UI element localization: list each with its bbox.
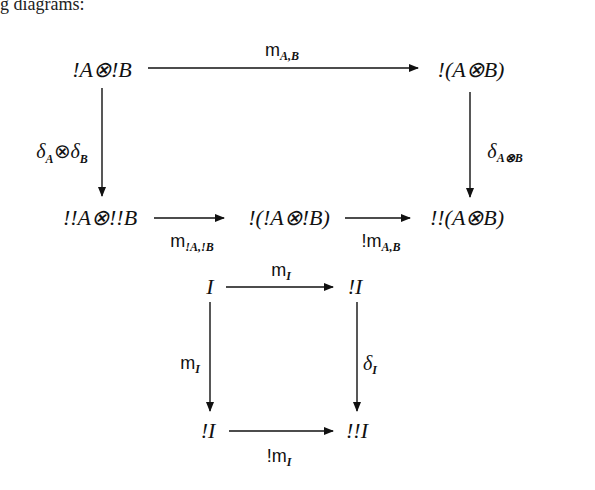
node-text: I — [206, 274, 213, 299]
node-text: !(A⊗B) — [438, 57, 505, 82]
node-bang-I-top: !I — [348, 274, 363, 300]
node-text: !I — [201, 418, 216, 443]
label-delta-I: δI — [363, 352, 377, 379]
label-bang-m-AB: !mA,B — [361, 231, 400, 256]
node-text: !!I — [346, 418, 368, 443]
node-I: I — [206, 274, 213, 300]
label-m-I-left: mI — [180, 353, 200, 378]
node-text: !I — [348, 274, 363, 299]
node-bangbang-A-tensor-B: !!(A⊗B) — [430, 205, 504, 231]
node-text: !(!A⊗!B) — [248, 205, 330, 230]
label-delta-A-tensor-B: δA⊗B — [487, 140, 522, 167]
node-bang-A-tensor-B: !(A⊗B) — [438, 57, 505, 83]
label-bang-m-I: !mI — [267, 446, 292, 471]
node-text: !!A⊗!!B — [63, 205, 137, 230]
node-text: !!(A⊗B) — [430, 205, 504, 230]
node-text: !A⊗!B — [72, 57, 132, 82]
node-bangA-tensor-bangB: !A⊗!B — [72, 57, 132, 83]
node-bang-bangA-tensor-bangB: !(!A⊗!B) — [248, 205, 330, 231]
node-bang-I-bottom: !I — [201, 418, 216, 444]
node-bangbangA-tensor-bangbangB: !!A⊗!!B — [63, 205, 137, 231]
label-m-I-top: mI — [271, 260, 291, 285]
label-delta-A-tensor-delta-B: δA⊗δB — [36, 139, 88, 167]
label-m-AB: mA,B — [265, 40, 299, 65]
node-bangbang-I: !!I — [346, 418, 368, 444]
label-m-bangA-bangB: m!A,!B — [170, 231, 213, 256]
